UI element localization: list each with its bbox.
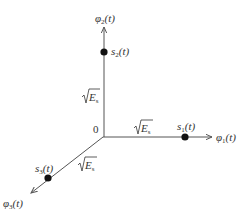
origin-label: 0 <box>93 123 99 135</box>
svg-text:Es: Es <box>88 91 99 105</box>
phi2-distance-label: Es <box>82 89 100 105</box>
phi1-distance-label: Es <box>134 120 153 136</box>
svg-text:Es: Es <box>84 159 95 173</box>
s3-label: s3(t) <box>35 162 54 176</box>
svg-text:Es: Es <box>140 122 151 136</box>
s2-label: s2(t) <box>111 45 130 59</box>
phi3-axis-label: φ3(t) <box>3 197 23 211</box>
signal-space-diagram: φ1(t) φ2(t) φ3(t) 0 s1(t) s2(t) s3(t) Es <box>0 0 249 219</box>
phi3-distance-label: Es <box>78 157 97 173</box>
s3-point <box>44 174 51 181</box>
s1-point <box>181 133 188 140</box>
s2-point <box>100 48 107 55</box>
s1-label: s1(t) <box>177 120 196 134</box>
phi1-axis-label: φ1(t) <box>216 131 236 145</box>
phi2-axis-label: φ2(t) <box>95 12 115 26</box>
